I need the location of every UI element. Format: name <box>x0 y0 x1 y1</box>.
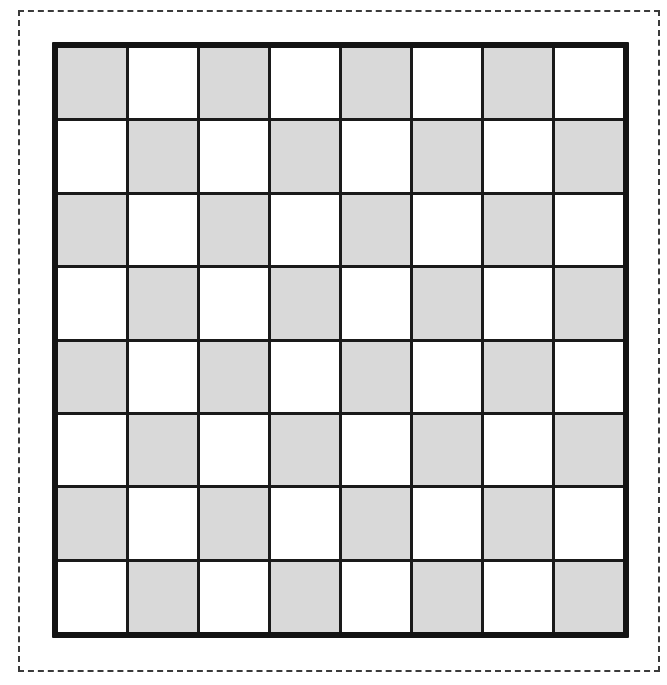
board-square-r2-c4[interactable] <box>271 121 339 191</box>
board-square-r1-c7[interactable] <box>484 48 552 118</box>
board-square-r1-c6[interactable] <box>413 48 481 118</box>
board-square-r2-c5[interactable] <box>342 121 410 191</box>
board-square-r7-c5[interactable] <box>342 488 410 558</box>
board-square-r2-c8[interactable] <box>555 121 623 191</box>
board-square-r5-c2[interactable] <box>129 342 197 412</box>
board-square-r5-c1[interactable] <box>58 342 126 412</box>
board-square-r2-c1[interactable] <box>58 121 126 191</box>
board-square-r4-c6[interactable] <box>413 268 481 338</box>
board-square-r1-c1[interactable] <box>58 48 126 118</box>
board-square-r3-c7[interactable] <box>484 195 552 265</box>
board-square-r8-c4[interactable] <box>271 562 339 632</box>
board-square-r3-c5[interactable] <box>342 195 410 265</box>
board-square-r5-c6[interactable] <box>413 342 481 412</box>
board-square-r7-c3[interactable] <box>200 488 268 558</box>
board-square-r7-c7[interactable] <box>484 488 552 558</box>
checkerboard-frame <box>52 42 629 638</box>
board-square-r4-c3[interactable] <box>200 268 268 338</box>
board-square-r7-c6[interactable] <box>413 488 481 558</box>
board-square-r6-c7[interactable] <box>484 415 552 485</box>
board-square-r4-c5[interactable] <box>342 268 410 338</box>
board-square-r8-c1[interactable] <box>58 562 126 632</box>
board-square-r3-c6[interactable] <box>413 195 481 265</box>
board-square-r8-c2[interactable] <box>129 562 197 632</box>
board-square-r8-c8[interactable] <box>555 562 623 632</box>
board-square-r6-c5[interactable] <box>342 415 410 485</box>
board-square-r2-c3[interactable] <box>200 121 268 191</box>
board-square-r1-c5[interactable] <box>342 48 410 118</box>
board-square-r8-c3[interactable] <box>200 562 268 632</box>
board-square-r4-c7[interactable] <box>484 268 552 338</box>
board-square-r4-c2[interactable] <box>129 268 197 338</box>
board-square-r3-c2[interactable] <box>129 195 197 265</box>
board-square-r4-c4[interactable] <box>271 268 339 338</box>
board-square-r8-c6[interactable] <box>413 562 481 632</box>
board-square-r5-c5[interactable] <box>342 342 410 412</box>
checkerboard-grid <box>58 48 623 632</box>
board-square-r7-c1[interactable] <box>58 488 126 558</box>
board-square-r3-c1[interactable] <box>58 195 126 265</box>
board-square-r2-c6[interactable] <box>413 121 481 191</box>
board-square-r6-c4[interactable] <box>271 415 339 485</box>
board-square-r5-c4[interactable] <box>271 342 339 412</box>
board-square-r2-c7[interactable] <box>484 121 552 191</box>
board-square-r6-c6[interactable] <box>413 415 481 485</box>
board-square-r3-c4[interactable] <box>271 195 339 265</box>
board-square-r6-c3[interactable] <box>200 415 268 485</box>
canvas <box>0 0 667 685</box>
board-square-r1-c4[interactable] <box>271 48 339 118</box>
board-square-r7-c8[interactable] <box>555 488 623 558</box>
board-square-r4-c8[interactable] <box>555 268 623 338</box>
board-square-r3-c3[interactable] <box>200 195 268 265</box>
board-square-r1-c2[interactable] <box>129 48 197 118</box>
board-square-r8-c7[interactable] <box>484 562 552 632</box>
board-square-r6-c8[interactable] <box>555 415 623 485</box>
board-square-r1-c8[interactable] <box>555 48 623 118</box>
board-square-r5-c7[interactable] <box>484 342 552 412</box>
board-square-r6-c2[interactable] <box>129 415 197 485</box>
board-square-r2-c2[interactable] <box>129 121 197 191</box>
board-square-r3-c8[interactable] <box>555 195 623 265</box>
board-square-r8-c5[interactable] <box>342 562 410 632</box>
board-square-r7-c4[interactable] <box>271 488 339 558</box>
board-square-r4-c1[interactable] <box>58 268 126 338</box>
board-square-r6-c1[interactable] <box>58 415 126 485</box>
board-square-r5-c8[interactable] <box>555 342 623 412</box>
board-square-r1-c3[interactable] <box>200 48 268 118</box>
board-square-r5-c3[interactable] <box>200 342 268 412</box>
board-square-r7-c2[interactable] <box>129 488 197 558</box>
